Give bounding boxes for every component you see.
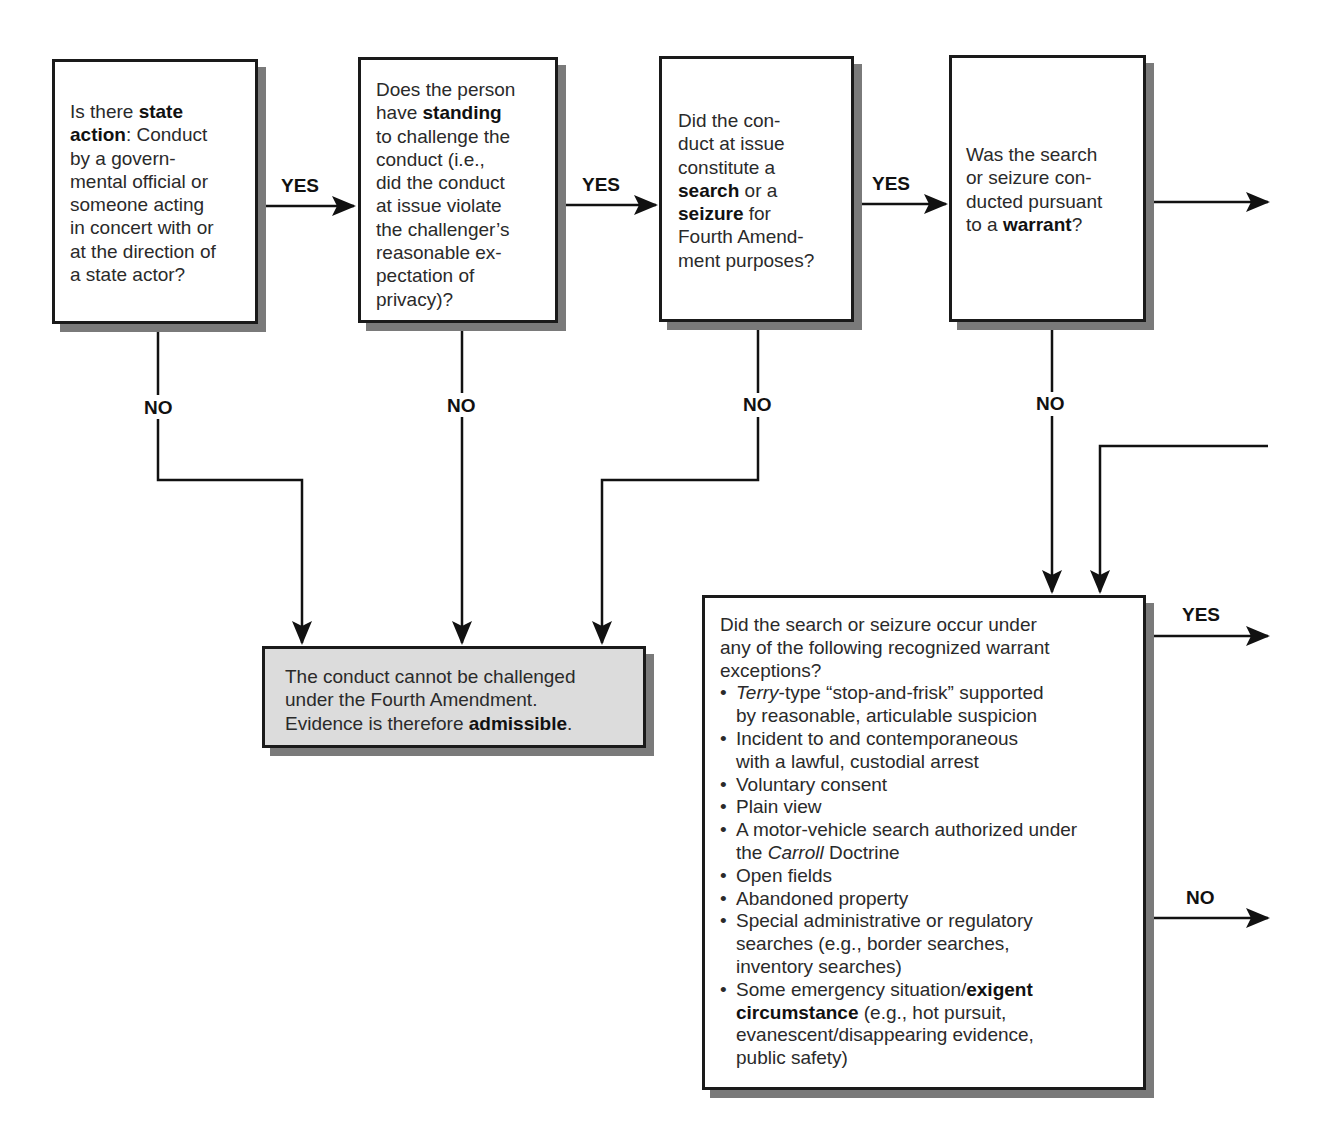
exception-item: Abandoned property (720, 888, 1140, 911)
exception-item: Voluntary consent (720, 774, 1140, 797)
exception-item: Terry-type “stop-and-frisk” supportedby … (720, 682, 1140, 728)
exception-item: Special administrative or regulatorysear… (720, 910, 1140, 978)
warrant-exceptions-list: Terry-type “stop-and-frisk” supportedby … (720, 682, 1140, 1070)
warrant-text: Was the searchor seizure con-ducted purs… (966, 143, 1102, 236)
standing-box: Does the personhave standingto challenge… (358, 57, 558, 323)
admissible-terminal-box: The conduct cannot be challengedunder th… (262, 646, 646, 748)
state-action-text: Is there stateaction: Conductby a govern… (70, 100, 216, 286)
exception-item: Incident to and contemporaneouswith a la… (720, 728, 1140, 774)
warrant-exceptions-intro: Did the search or seizure occur underany… (720, 614, 1140, 682)
admissible-text: The conduct cannot be challengedunder th… (285, 665, 576, 735)
no-label-2: NO (447, 395, 476, 417)
exception-item: Plain view (720, 796, 1140, 819)
yes-label-2: YES (582, 174, 620, 196)
no-label-4: NO (1036, 393, 1065, 415)
search-seizure-text: Did the con-duct at issueconstitute asea… (678, 109, 814, 272)
exception-item: Open fields (720, 865, 1140, 888)
no-label-3: NO (743, 394, 772, 416)
search-seizure-box: Did the con-duct at issueconstitute asea… (659, 56, 854, 322)
no-label-exceptions: NO (1186, 887, 1215, 909)
exception-item: A motor-vehicle search authorized undert… (720, 819, 1140, 865)
exception-item: Some emergency situation/exigentcircumst… (720, 979, 1140, 1070)
standing-text: Does the personhave standingto challenge… (376, 78, 515, 311)
yes-label-exceptions: YES (1182, 604, 1220, 626)
warrant-box: Was the searchor seizure con-ducted purs… (949, 55, 1146, 322)
yes-label-1: YES (281, 175, 319, 197)
warrant-exceptions-content: Did the search or seizure occur underany… (720, 614, 1140, 1070)
state-action-box: Is there stateaction: Conductby a govern… (52, 59, 258, 324)
warrant-exceptions-box: Did the search or seizure occur underany… (702, 595, 1146, 1090)
yes-label-3: YES (872, 173, 910, 195)
no-label-1: NO (144, 397, 173, 419)
